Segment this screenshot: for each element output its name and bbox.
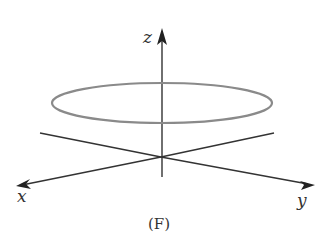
y-axis-line — [161, 157, 308, 184]
axes-diagram: z x y (F) — [0, 0, 327, 247]
negative-y-axis-line — [40, 133, 161, 157]
x-axis-line — [22, 157, 161, 185]
y-axis-arrow-icon — [300, 181, 315, 190]
figure-caption: (F) — [148, 215, 170, 233]
figure-canvas: z x y (F) — [0, 0, 327, 247]
negative-x-axis-line — [161, 133, 274, 157]
z-axis-label: z — [142, 27, 153, 47]
y-axis-label: y — [296, 190, 307, 210]
x-axis-label: x — [17, 186, 27, 206]
